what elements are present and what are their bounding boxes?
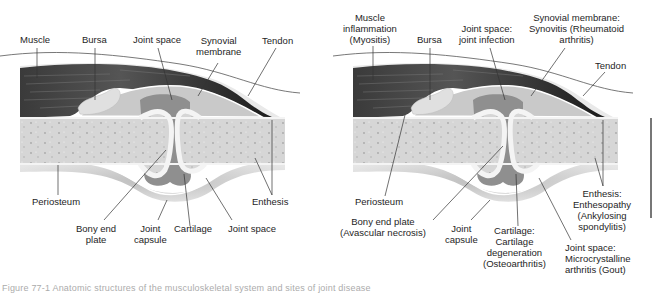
label-line: joint infection — [459, 34, 514, 45]
label-enthesis: Enthesis — [252, 196, 288, 207]
label-line: inflammation — [343, 23, 397, 34]
label-joint-infection: Joint space: joint infection — [459, 23, 514, 45]
label-synovitis: Synovial membrane: Synovitis (Rheumatoid… — [529, 12, 624, 45]
label-line: plate — [76, 234, 116, 245]
label-periosteum: Periosteum — [355, 196, 403, 207]
label-line: Muscle — [343, 12, 397, 23]
figure-caption: Figure 77-1 Anatomic structures of the m… — [2, 283, 371, 293]
label-line: (Myositis) — [343, 34, 397, 45]
label-line: arthritis (Gout) — [565, 264, 630, 275]
label-line: (Avascular necrosis) — [340, 227, 426, 238]
label-line: Synovial — [196, 35, 241, 46]
label-tendon: Tendon — [595, 60, 626, 71]
label-line: Synovial membrane: — [529, 12, 624, 23]
label-line: Joint — [445, 223, 478, 234]
label-line: Joint space: — [459, 23, 514, 34]
label-joint-capsule: Joint capsule — [445, 223, 478, 245]
label-line: Cartilage: — [483, 225, 546, 236]
label-line: (Ankylosing — [573, 210, 631, 221]
label-line: capsule — [445, 234, 478, 245]
label-line: (Osteoarthritis) — [483, 258, 546, 269]
label-line: Enthesopathy — [573, 199, 631, 210]
label-line: arthritis) — [529, 34, 624, 45]
label-gout: Joint space: Microcrystalline arthritis … — [565, 242, 630, 275]
label-line: Microcrystalline — [565, 253, 630, 264]
label-bursa: Bursa — [82, 34, 107, 45]
label-cartilage: Cartilage — [174, 223, 212, 234]
label-line: Joint space: — [565, 242, 630, 253]
normal-joint-panel: Muscle Bursa Joint space Synovial membra… — [0, 0, 320, 270]
label-muscle-inflammation: Muscle inflammation (Myositis) — [343, 12, 397, 45]
label-line: capsule — [134, 234, 167, 245]
label-line: Cartilage — [483, 236, 546, 247]
label-line: Joint — [134, 223, 167, 234]
label-avascular-necrosis: Bony end plate (Avascular necrosis) — [340, 216, 426, 238]
label-periosteum: Periosteum — [32, 196, 80, 207]
label-line: spondylitis) — [573, 221, 631, 232]
label-bony-end-plate: Bony end plate — [76, 223, 116, 245]
joint-disease-panel: Muscle inflammation (Myositis) Bursa Joi… — [333, 0, 653, 270]
label-line: degeneration — [483, 247, 546, 258]
label-line: Enthesis: — [573, 188, 631, 199]
page-edge-bar — [650, 118, 652, 218]
label-joint-capsule: Joint capsule — [134, 223, 167, 245]
label-line: Bony end plate — [340, 216, 426, 227]
label-osteoarthritis: Cartilage: Cartilage degeneration (Osteo… — [483, 225, 546, 269]
label-line: Synovitis (Rheumatoid — [529, 23, 624, 34]
label-joint-space-bottom: Joint space — [228, 223, 276, 234]
label-joint-space-top: Joint space — [133, 34, 181, 45]
label-bursa: Bursa — [417, 34, 442, 45]
label-tendon: Tendon — [262, 35, 293, 46]
label-line: Bony end — [76, 223, 116, 234]
label-muscle: Muscle — [20, 34, 50, 45]
label-line: membrane — [196, 46, 241, 57]
label-synovial-membrane: Synovial membrane — [196, 35, 241, 57]
label-enthesopathy: Enthesis: Enthesopathy (Ankylosing spond… — [573, 188, 631, 232]
